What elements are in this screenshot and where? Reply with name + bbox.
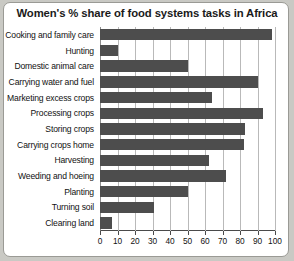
- bar: [100, 170, 226, 181]
- category-label: Domestic animal care: [4, 58, 97, 74]
- bar-series: [100, 27, 275, 231]
- x-axis-ticks: 0102030405060708090100: [100, 231, 276, 253]
- bar-row: [100, 74, 275, 90]
- category-label: Storing crops: [4, 121, 97, 137]
- bar-row: [100, 137, 275, 153]
- tick-mark: [223, 231, 224, 235]
- bar-row: [100, 153, 275, 169]
- tick-label: 40: [165, 236, 174, 246]
- chart-card: Women's % share of food systems tasks in…: [3, 2, 289, 257]
- bar: [100, 155, 209, 166]
- bar-row: [100, 121, 275, 137]
- bar-row: [100, 90, 275, 106]
- category-label: Planting: [4, 184, 97, 200]
- tick-label: 60: [200, 236, 209, 246]
- bar: [100, 202, 154, 213]
- tick-label: 30: [148, 236, 157, 246]
- bar: [100, 186, 188, 197]
- tick-mark: [118, 231, 119, 235]
- category-label: Clearing land: [4, 215, 97, 231]
- tick-label: 10: [113, 236, 122, 246]
- bar-row: [100, 184, 275, 200]
- tick-label: 80: [235, 236, 244, 246]
- tick-mark: [135, 231, 136, 235]
- bar: [100, 76, 258, 87]
- tick-mark: [100, 231, 101, 235]
- bar: [100, 217, 112, 228]
- tick-mark: [188, 231, 189, 235]
- tick-label: 20: [130, 236, 139, 246]
- bar-row: [100, 200, 275, 216]
- category-label: Hunting: [4, 43, 97, 59]
- category-label: Turning soil: [4, 200, 97, 216]
- tick-mark: [258, 231, 259, 235]
- bar: [100, 108, 263, 119]
- category-label: Marketing excess crops: [4, 90, 97, 106]
- category-label: Processing crops: [4, 105, 97, 121]
- category-label: Carrying crops home: [4, 137, 97, 153]
- category-label: Weeding and hoeing: [4, 168, 97, 184]
- bar-row: [100, 105, 275, 121]
- bar: [100, 60, 188, 71]
- bar-row: [100, 27, 275, 43]
- tick-label: 0: [98, 236, 103, 246]
- tick-label: 90: [253, 236, 262, 246]
- bar: [100, 45, 118, 56]
- plot-area: [100, 27, 275, 231]
- category-label: Cooking and family care: [4, 27, 97, 43]
- tick-mark: [240, 231, 241, 235]
- tick-mark: [153, 231, 154, 235]
- bar: [100, 92, 212, 103]
- bar-row: [100, 168, 275, 184]
- bar-row: [100, 215, 275, 231]
- chart-title: Women's % share of food systems tasks in…: [4, 7, 289, 19]
- tick-mark: [275, 231, 276, 235]
- category-label: Carrying water and fuel: [4, 74, 97, 90]
- tick-mark: [170, 231, 171, 235]
- gridline: [275, 27, 276, 231]
- bar-row: [100, 58, 275, 74]
- bar: [100, 29, 272, 40]
- bar: [100, 123, 245, 134]
- category-axis-labels: Cooking and family care Hunting Domestic…: [4, 27, 97, 231]
- tick-label: 50: [183, 236, 192, 246]
- tick-label: 70: [218, 236, 227, 246]
- bar: [100, 139, 244, 150]
- bar-row: [100, 43, 275, 59]
- tick-label: 100: [268, 236, 282, 246]
- category-label: Harvesting: [4, 153, 97, 169]
- tick-mark: [205, 231, 206, 235]
